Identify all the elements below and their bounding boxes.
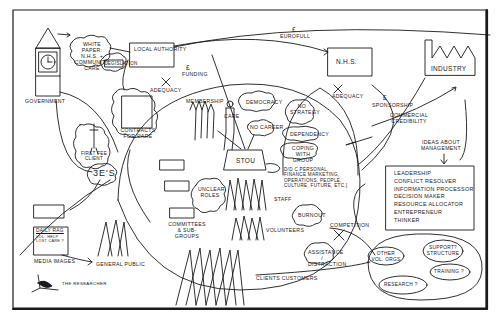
democracy-label: Democracy bbox=[246, 100, 282, 106]
three-es-label: 3E'S bbox=[93, 168, 116, 178]
training-label: Training ? bbox=[434, 269, 464, 275]
eurofull-label: Eurofull bbox=[280, 34, 310, 40]
support-structure-label: Support? structure bbox=[426, 245, 460, 256]
clients-figures-icon bbox=[176, 248, 244, 305]
adequacy-label-1: Adequacy bbox=[150, 88, 182, 94]
funding-label: Funding bbox=[182, 72, 208, 78]
clock-tower-icon bbox=[36, 28, 60, 96]
role-item: Entrepreneur bbox=[394, 209, 474, 217]
staff-label: Staff bbox=[274, 197, 292, 203]
the-researcher-label: The Researcher bbox=[62, 281, 107, 286]
role-item: Decision maker bbox=[394, 193, 474, 201]
role-item: Leadership bbox=[394, 170, 474, 178]
adequacy-label-2: Adequacy bbox=[332, 94, 364, 100]
industry-label: Industry bbox=[431, 65, 467, 72]
media-images-label: Media images bbox=[34, 259, 75, 265]
unclear-roles-label: Unclear roles bbox=[198, 187, 222, 199]
staff-figures-icon bbox=[226, 178, 266, 240]
role-item: Thinker bbox=[394, 217, 474, 225]
local-authority-label: Local authority bbox=[134, 47, 186, 53]
contracts-for-care-label: Contracts for care bbox=[118, 128, 158, 140]
clients-customers-label: Clients customers bbox=[256, 276, 318, 282]
media-headline: Daily Rag bbox=[36, 228, 64, 234]
adequacy-cross-icon bbox=[162, 78, 170, 86]
no-strategy-label: No strategy bbox=[290, 104, 314, 116]
researcher-eye-icon bbox=[32, 275, 58, 292]
contracts-document-icon bbox=[122, 96, 152, 128]
sponsorship-pound-symbol: £ bbox=[383, 94, 387, 101]
legislation-label: Legislation bbox=[105, 61, 137, 66]
ideas-about-management-label: Ideas about management bbox=[418, 140, 464, 152]
research-label: Research ? bbox=[384, 282, 418, 288]
adequacy-cross-icon-2 bbox=[334, 85, 342, 93]
stou-label: STOU bbox=[236, 157, 255, 164]
competition-cross-icon bbox=[334, 230, 344, 240]
dilemmas-label: D/D C Personal, finance marketing, opera… bbox=[284, 167, 350, 188]
volunteers-label: Volunteers bbox=[266, 228, 304, 234]
rich-picture-diagram: Government White paper: N.H.S. + communi… bbox=[0, 0, 498, 321]
coping-with-group-label: Coping with group bbox=[287, 146, 319, 164]
general-public-figures-icon bbox=[98, 220, 128, 256]
care-label: Care bbox=[224, 114, 240, 120]
management-roles-list: Leadership Conflict resolver Information… bbox=[394, 170, 474, 225]
committees-label: Committees & Sub-groups bbox=[166, 222, 208, 240]
role-item: Resource allocator bbox=[394, 201, 474, 209]
burnout-label: Burnout bbox=[298, 213, 326, 219]
role-item: Conflict resolver bbox=[394, 178, 474, 186]
government-label: Government bbox=[25, 99, 65, 105]
media-subtext: Vol. help lost care ? bbox=[36, 235, 66, 244]
white-paper-label: White paper: N.H.S. + community care bbox=[74, 42, 110, 72]
dependency-label: Dependency bbox=[290, 132, 329, 138]
membership-label: Membership bbox=[186, 99, 224, 105]
committees-icon bbox=[160, 160, 194, 218]
sponsorship-label: Sponsorship bbox=[372, 103, 413, 109]
role-item: Information processor bbox=[394, 186, 474, 194]
other-vol-orgs-label: Other vol. orgs bbox=[370, 251, 402, 262]
first-fee-client-label: First fee client bbox=[80, 151, 108, 162]
no-career-label: No career bbox=[250, 125, 284, 131]
commercial-credibility-label: Commercial credibility bbox=[389, 113, 429, 125]
nhs-label: N.H.S. bbox=[336, 58, 357, 65]
assistance-distraction-label: Assistance / distraction bbox=[308, 250, 336, 268]
general-public-label: General public bbox=[96, 262, 145, 268]
membership-figures-icon bbox=[190, 101, 234, 150]
competition-label: Competition bbox=[330, 223, 369, 229]
